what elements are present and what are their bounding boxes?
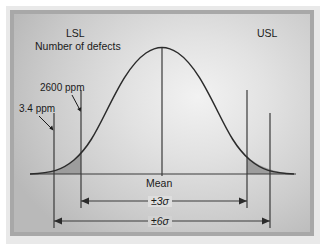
six-sigma-left-arrowhead bbox=[54, 218, 62, 225]
six-sigma-right-arrowhead bbox=[262, 218, 270, 225]
three-sigma-label: ±3σ bbox=[148, 196, 172, 207]
six-sigma-diagram-screenshot: LSL Number of defects USL 2600 ppm 3.4 p… bbox=[0, 0, 326, 250]
mean-label: Mean bbox=[146, 178, 172, 189]
ppm-3-4-label: 3.4 ppm bbox=[19, 104, 55, 114]
three-sigma-left-arrowhead bbox=[81, 198, 89, 205]
ppm-3-4-leader-line bbox=[39, 116, 52, 129]
ppm-2600-leader-line bbox=[72, 95, 80, 110]
lsl-label: LSL bbox=[66, 28, 85, 39]
three-sigma-right-arrowhead bbox=[239, 198, 247, 205]
usl-label: USL bbox=[257, 28, 277, 39]
number-of-defects-label: Number of defects bbox=[35, 41, 121, 52]
six-sigma-label: ±6σ bbox=[148, 216, 172, 227]
ppm-2600-label: 2600 ppm bbox=[40, 83, 84, 93]
